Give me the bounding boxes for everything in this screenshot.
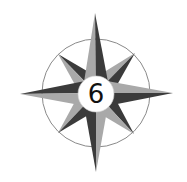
compass-rose-icon: 6 <box>0 0 187 182</box>
badge-number: 6 <box>88 79 105 109</box>
